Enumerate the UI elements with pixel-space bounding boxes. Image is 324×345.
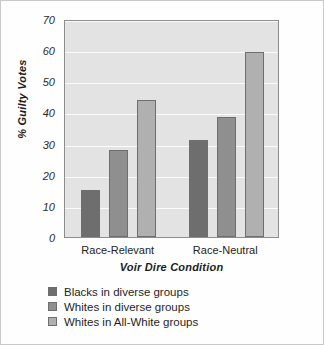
- y-tick-label: 20: [43, 170, 55, 182]
- legend-label: Whites in diverse groups: [64, 301, 190, 313]
- y-tick-label: 60: [43, 45, 55, 57]
- bar: [189, 140, 208, 237]
- bar: [245, 52, 264, 237]
- chart-legend: Blacks in diverse groupsWhites in divers…: [48, 284, 198, 329]
- y-tick-label: 10: [43, 201, 55, 213]
- legend-item: Whites in All-White groups: [48, 314, 198, 329]
- legend-label: Whites in All-White groups: [64, 316, 198, 328]
- legend-label: Blacks in diverse groups: [64, 286, 189, 298]
- bars-container: [65, 21, 278, 237]
- chart-figure: % Guilty Votes 706050403020100 Voir Dire…: [0, 0, 324, 345]
- bar: [217, 117, 236, 237]
- y-tick-label: 30: [43, 139, 55, 151]
- x-tick-label: Race-Relevant: [64, 244, 172, 256]
- legend-item: Blacks in diverse groups: [48, 284, 198, 299]
- x-axis-title: Voir Dire Condition: [64, 261, 279, 273]
- bar: [81, 190, 100, 237]
- bar: [109, 150, 128, 237]
- legend-swatch-icon: [48, 287, 57, 296]
- legend-swatch-icon: [48, 317, 57, 326]
- gridline: [65, 239, 278, 240]
- x-tick-label: Race-Neutral: [172, 244, 280, 256]
- bar: [137, 100, 156, 237]
- y-tick-label: 70: [43, 14, 55, 26]
- y-tick-label: 40: [43, 107, 55, 119]
- y-axis-tick-labels: 706050403020100: [1, 20, 60, 238]
- legend-swatch-icon: [48, 302, 57, 311]
- y-tick-label: 50: [43, 76, 55, 88]
- legend-item: Whites in diverse groups: [48, 299, 198, 314]
- plot-area: [64, 20, 279, 238]
- y-tick-label: 0: [49, 232, 55, 244]
